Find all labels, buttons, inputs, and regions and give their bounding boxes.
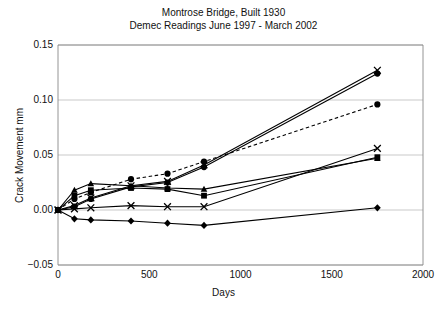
series-series-1-cross-top [55, 67, 381, 214]
x-tick-label: 2000 [403, 269, 443, 280]
data-point-x [374, 145, 381, 152]
data-point-square [201, 193, 207, 199]
data-point-diamond [87, 216, 94, 223]
data-point-square [88, 187, 94, 193]
series-line [58, 208, 377, 226]
y-tick-label: 0.05 [13, 149, 53, 160]
series-series-7-diamond-low [55, 204, 381, 229]
x-axis-label: Days [0, 287, 447, 298]
data-point-circle [374, 71, 380, 77]
data-point-diamond [201, 222, 208, 229]
data-point-diamond [71, 215, 78, 222]
data-point-circle [201, 164, 207, 170]
x-tick-label: 0 [38, 269, 78, 280]
series-series-4-square [55, 154, 380, 213]
data-point-circle [164, 171, 170, 177]
data-point-circle [201, 159, 207, 165]
y-tick-label: 0.15 [13, 39, 53, 50]
data-point-circle [128, 176, 134, 182]
y-tick-label: 0.10 [13, 94, 53, 105]
series-series-2-circle-top [55, 71, 381, 214]
chart-container: Montrose Bridge, Built 1930 Demec Readin… [0, 0, 447, 312]
x-tick-label: 1000 [221, 269, 261, 280]
x-tick-label: 1500 [312, 269, 352, 280]
plot-area [0, 0, 447, 312]
x-tick-label: 500 [129, 269, 169, 280]
data-point-diamond [164, 220, 171, 227]
data-point-diamond [128, 217, 135, 224]
y-tick-label: 0.00 [13, 204, 53, 215]
data-point-circle [374, 101, 380, 107]
data-point-circle [88, 196, 94, 202]
data-point-square [72, 193, 78, 199]
